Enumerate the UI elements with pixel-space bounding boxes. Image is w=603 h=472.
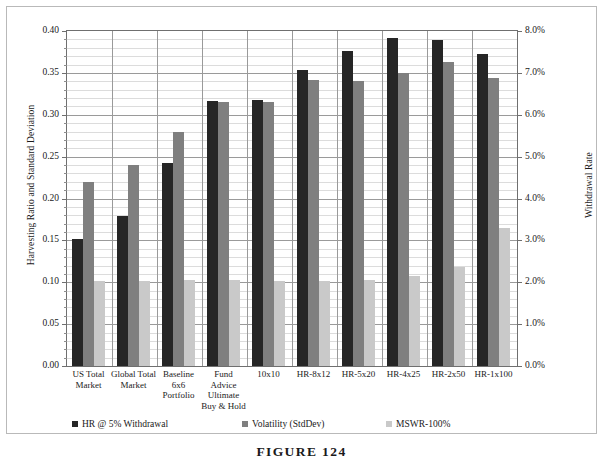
y-tick-label-left: 0.05 [42,319,59,329]
y-tick-right [517,73,522,74]
y-tick-label-left: 0.25 [42,152,59,162]
x-axis-label-line: Global Total [111,369,156,380]
y-tick-label-right: 7.0% [525,68,545,78]
y-tick-right [517,157,522,158]
legend-swatch-icon [386,421,392,427]
bar-group [112,31,157,366]
legend-label: HR @ 5% Withdrawal [82,419,168,429]
bar-mswr-100pct [274,281,285,366]
y-tick-right [517,324,522,325]
bar-group [292,31,337,366]
x-axis-label: HR-8x12 [291,369,336,380]
x-axis-label: HR-1x100 [471,369,516,380]
y-tick-label-left: 0.30 [42,110,59,120]
y-tick-label-right: 5.0% [525,152,545,162]
bar-mswr-100pct [184,280,195,366]
bar-group [382,31,427,366]
bar-hr-5pct-withdrawal [387,38,398,366]
legend-item: HR @ 5% Withdrawal [72,419,168,429]
legend-item: Volatility (StdDev) [242,419,324,429]
x-axis-label-line: Buy & Hold [201,401,246,412]
y-tick-label-left: 0.35 [42,68,59,78]
x-axis-label: 10x10 [246,369,291,380]
x-axis-label: Baseline6x6Portfolio [156,369,201,401]
legend-label: MSWR-100% [396,419,450,429]
bar-mswr-100pct [454,267,465,366]
x-axis-label: HR-4x25 [381,369,426,380]
x-axis-label-line: Market [66,380,111,391]
bar-hr-5pct-withdrawal [432,40,443,366]
bar-mswr-100pct [499,228,510,366]
x-axis-label-line: US Total [66,369,111,380]
x-axis-label-line: HR-2x50 [426,369,471,380]
bar-hr-5pct-withdrawal [342,51,353,366]
y-tick-label-right: 0.0% [525,361,545,371]
bar-mswr-100pct [94,281,105,366]
x-axis-label-line: HR-5x20 [336,369,381,380]
x-axis-label: Global TotalMarket [111,369,156,390]
bar-hr-5pct-withdrawal [297,70,308,366]
figure-caption: FIGURE 124 [0,444,603,460]
legend-item: MSWR-100% [386,419,450,429]
y-tick-label-left: 0.10 [42,278,59,288]
bar-hr-5pct-withdrawal [162,163,173,366]
y-tick-label-right: 2.0% [525,278,545,288]
y-tick-label-right: 1.0% [525,319,545,329]
x-axis-label: HR-2x50 [426,369,471,380]
x-axis-label-line: Baseline [156,369,201,380]
x-axis-label-line: Market [111,380,156,391]
y-axis-right-title: Withdrawal Rate [584,85,594,285]
plot-area: 0.000.050.100.150.200.250.300.350.400.0%… [66,30,518,367]
bar-group [472,31,517,366]
bar-group [202,31,247,366]
bar-mswr-100pct [229,280,240,366]
y-tick-right [517,31,522,32]
bar-hr-5pct-withdrawal [117,216,128,366]
bar-hr-5pct-withdrawal [252,100,263,366]
x-axis-label-line: Advice [201,380,246,391]
y-tick-right [517,240,522,241]
y-tick-left [62,366,67,367]
y-tick-label-left: 0.15 [42,236,59,246]
bar-mswr-100pct [139,281,150,366]
figure-124: Harvesting Ratio and Standard Deviation … [0,0,603,472]
y-tick-right [517,115,522,116]
y-tick-label-left: 0.20 [42,194,59,204]
bar-mswr-100pct [409,276,420,366]
y-axis-left-title: Harvesting Ratio and Standard Deviation [26,85,36,285]
chart-legend: HR @ 5% WithdrawalVolatility (StdDev)MSW… [66,419,516,435]
x-axis-label: HR-5x20 [336,369,381,380]
legend-label: Volatility (StdDev) [252,419,324,429]
bar-hr-5pct-withdrawal [72,239,83,366]
bar-volatility-stddev [488,78,499,366]
y-tick-label-left: 0.00 [42,361,59,371]
y-tick-right [517,366,522,367]
bar-volatility-stddev [173,132,184,367]
x-axis-label-line: Ultimate [201,390,246,401]
bar-group [427,31,472,366]
y-tick-label-left: 0.40 [42,26,59,36]
bar-group [247,31,292,366]
y-tick-right [517,282,522,283]
bar-volatility-stddev [83,182,94,366]
bar-volatility-stddev [353,81,364,366]
x-axis-label-line: 6x6 [156,380,201,391]
bar-mswr-100pct [364,280,375,366]
x-axis-label-line: HR-4x25 [381,369,426,380]
bar-volatility-stddev [443,62,454,366]
bar-volatility-stddev [308,80,319,366]
y-tick-label-right: 3.0% [525,236,545,246]
y-tick-label-right: 6.0% [525,110,545,120]
x-axis-label-line: 10x10 [246,369,291,380]
bar-volatility-stddev [218,102,229,366]
bar-volatility-stddev [398,73,409,366]
bar-group [67,31,112,366]
x-axis-label-line: HR-1x100 [471,369,516,380]
bar-hr-5pct-withdrawal [477,54,488,366]
x-axis-label: FundAdviceUltimateBuy & Hold [201,369,246,411]
bar-volatility-stddev [263,102,274,366]
x-axis-label-line: Portfolio [156,390,201,401]
x-axis-label: US TotalMarket [66,369,111,390]
legend-swatch-icon [72,421,78,427]
y-tick-label-right: 4.0% [525,194,545,204]
